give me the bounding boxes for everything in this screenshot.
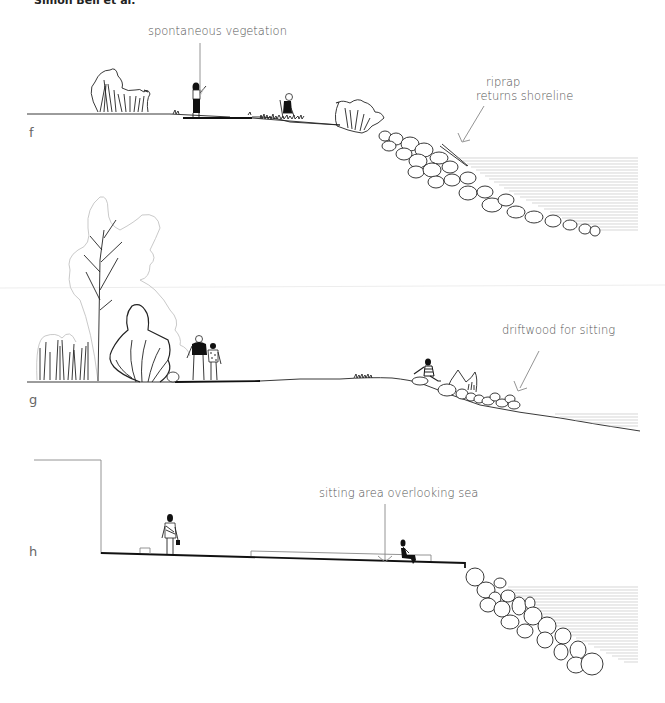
section-label-h: h	[29, 544, 37, 559]
couple-walking-icon	[187, 336, 221, 381]
section-h: h sitting area overlooking sea	[29, 460, 638, 675]
annotation-spontaneous-vegetation: spontaneous vegetation	[148, 24, 287, 38]
seated-person-driftwood-icon	[412, 359, 441, 386]
tree-icon	[69, 197, 190, 381]
annotation-returns-shoreline: returns shoreline	[476, 89, 573, 103]
driftwood-rocks-g	[438, 370, 520, 409]
section-g: g	[27, 197, 640, 431]
annotation-driftwood-for-sitting: driftwood for sitting	[502, 323, 615, 337]
section-label-f: f	[29, 125, 34, 140]
seated-person-bench-icon	[401, 540, 417, 565]
annotation-riprap: riprap	[486, 75, 520, 89]
section-label-g: g	[29, 392, 37, 407]
shrub-icon	[91, 69, 150, 112]
section-f: f spontaneous vegetation	[27, 24, 638, 236]
section-drawings: f spontaneous vegetation	[0, 0, 665, 703]
riprap-rocks-h	[466, 568, 603, 675]
shoreline-shrub-icon	[335, 100, 384, 133]
annotation-sitting-area-overlooking-sea: sitting area overlooking sea	[319, 486, 478, 500]
riprap-rocks-f	[379, 131, 600, 236]
walking-person-icon	[162, 514, 180, 554]
reeds-icon	[37, 334, 88, 380]
shrub-icon	[110, 305, 179, 382]
standing-person-icon	[193, 83, 207, 118]
